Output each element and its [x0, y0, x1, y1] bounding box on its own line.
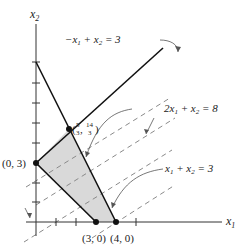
vertex-label-0-3: (0, 3) — [2, 157, 26, 170]
lp-diagram: x2 x1 −x1 + x2 = 3 2x1 + x2 = 8 x1 + x2 … — [0, 0, 240, 252]
svg-text:3: 3 — [88, 129, 92, 137]
label-negx1-x2-3: −x1 + x2 = 3 — [65, 33, 121, 47]
label-x1-x2-3: x1 + x2 = 3 — [164, 162, 214, 176]
x1-axis-label: x1 — [225, 214, 235, 230]
axes — [26, 24, 222, 236]
label-2x1-x2-8: 2x1 + x2 = 8 — [164, 102, 218, 116]
vertex-3-0 — [93, 219, 99, 225]
svg-text:14: 14 — [86, 121, 94, 129]
vertex-label-5-3-14-3: ( 5 3 , 14 3 ) — [72, 121, 99, 137]
vertex-label-3-0: (3, 0) — [82, 232, 106, 245]
vertex-label-4-0: (4, 0) — [110, 232, 134, 245]
x2-axis-label: x2 — [29, 7, 39, 23]
vertex-4-0 — [113, 219, 119, 225]
vertex-0-3 — [33, 160, 39, 166]
svg-text:): ) — [95, 123, 99, 136]
line-negx1-x2-3 — [36, 48, 163, 163]
svg-text:,: , — [80, 123, 83, 135]
